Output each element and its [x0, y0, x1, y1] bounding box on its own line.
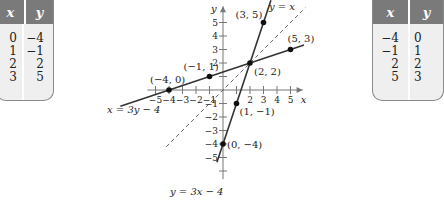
x-tick-label: −4: [162, 95, 176, 105]
x-tick-label: 5: [288, 95, 294, 105]
point-label: (2, 2): [254, 66, 281, 77]
point-label: (−4, 0): [150, 74, 185, 85]
x-tick-label: 2: [247, 95, 253, 105]
point-label: (−1, 1): [184, 61, 219, 72]
data-point: [166, 87, 172, 93]
y-tick-label: 4: [212, 31, 218, 41]
equation-label: y = x: [268, 1, 295, 12]
data-point: [261, 20, 267, 26]
data-point: [220, 141, 226, 147]
data-point: [207, 74, 213, 80]
x-tick-label: 4: [274, 95, 280, 105]
data-point: [288, 47, 294, 53]
data-point: [247, 60, 253, 66]
y-tick-label: −5: [205, 153, 219, 163]
axes: [147, 6, 302, 179]
x-axis-arrow-icon: [297, 87, 303, 93]
x-tick-label: 3: [261, 95, 267, 105]
y-tick-label: −4: [205, 139, 219, 149]
y-tick-label: −3: [205, 126, 219, 136]
y-axis-arrow-icon: [220, 6, 226, 12]
x-tick-label: −3: [176, 95, 190, 105]
equation-label: y = 3x − 4: [169, 186, 224, 197]
y-tick-label: −1: [205, 99, 218, 109]
equation-label: x = 3y − 4: [107, 104, 161, 115]
data-point: [234, 101, 240, 107]
point-label: (0, −4): [227, 139, 262, 150]
point-label: (5, 3): [288, 33, 315, 44]
y-tick-label: 5: [212, 18, 218, 28]
point-label: (1, −1): [240, 106, 275, 117]
x-tick-label: −2: [189, 95, 202, 105]
x-axis-label: x: [301, 94, 307, 105]
y-axis-label: y: [210, 3, 217, 14]
y-tick-label: −2: [205, 112, 218, 122]
y-tick-label: 3: [212, 45, 218, 55]
plot-labels: −5−4−3−2−123455432−1−2−3−4−5xy(3, 5)(5, …: [107, 1, 314, 197]
line-y-equals-x: [166, 8, 305, 147]
point-label: (3, 5): [236, 9, 263, 20]
